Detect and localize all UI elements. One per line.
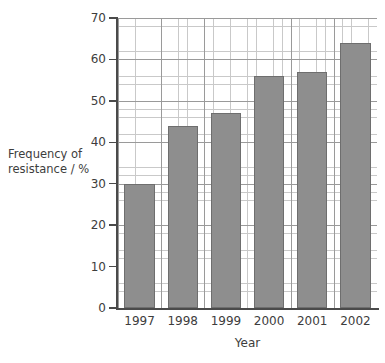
- y-tick-label-wrap-70: 70: [78, 12, 106, 24]
- y-tick-label-40: 40: [80, 136, 106, 148]
- y-tick-label-wrap-50: 50: [78, 95, 106, 107]
- y-tick-label-20: 20: [80, 219, 106, 231]
- y-tick-label-wrap-30: 30: [78, 178, 106, 190]
- y-tick-label-50: 50: [80, 95, 106, 107]
- y-tick-label-0: 0: [80, 302, 106, 314]
- x-tick-label-1999: 1999: [204, 314, 247, 328]
- y-tick-30: [109, 183, 117, 184]
- y-tick-60: [109, 59, 117, 60]
- y-tick-label-wrap-60: 60: [78, 53, 106, 65]
- y-tick-label-10: 10: [80, 261, 106, 273]
- y-axis-title: Frequency of resistance / %: [8, 147, 104, 177]
- x-tick-label-2000: 2000: [248, 314, 291, 328]
- y-tick-label-60: 60: [80, 53, 106, 65]
- bar-1997: [124, 184, 154, 308]
- y-tick-label-30: 30: [80, 178, 106, 190]
- y-tick-0: [109, 307, 117, 308]
- y-tick-10: [109, 266, 117, 267]
- bar-2002: [340, 43, 370, 308]
- y-tick-label-wrap-20: 20: [78, 219, 106, 231]
- bar-chart: Frequency of resistance / % 010203040506…: [0, 0, 385, 363]
- y-tick-20: [109, 224, 117, 225]
- y-tick-label-70: 70: [80, 12, 106, 24]
- y-axis-title-line-1: Frequency of: [8, 147, 104, 162]
- x-tick-label-2001: 2001: [291, 314, 334, 328]
- y-axis-title-line-2: resistance / %: [8, 162, 104, 177]
- major-vertical-gridlines: [118, 18, 377, 308]
- y-tick-50: [109, 100, 117, 101]
- bar-2000: [254, 76, 284, 308]
- x-axis-line: [116, 308, 379, 310]
- y-tick-label-wrap-40: 40: [78, 136, 106, 148]
- y-tick-40: [109, 142, 117, 143]
- bar-1999: [211, 113, 241, 308]
- y-tick-label-wrap-10: 10: [78, 261, 106, 273]
- x-tick-label-1998: 1998: [161, 314, 204, 328]
- x-tick-label-1997: 1997: [118, 314, 161, 328]
- bar-1998: [168, 126, 198, 308]
- bar-2001: [297, 72, 327, 308]
- x-tick-label-2002: 2002: [334, 314, 377, 328]
- x-axis-title: Year: [118, 336, 377, 350]
- y-tick-label-wrap-0: 0: [78, 302, 106, 314]
- plot-area: [118, 18, 377, 308]
- y-tick-70: [109, 17, 117, 18]
